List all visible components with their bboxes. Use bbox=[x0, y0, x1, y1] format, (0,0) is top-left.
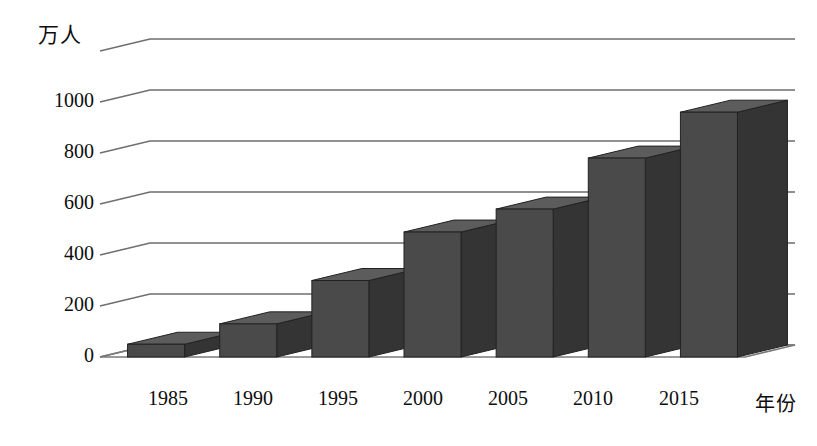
gridline-1200 bbox=[100, 39, 795, 51]
gridline-1000 bbox=[100, 90, 795, 102]
bar-2005 bbox=[496, 197, 603, 357]
bar-2015 bbox=[680, 100, 787, 357]
bar-1990 bbox=[220, 312, 327, 357]
bar-1985 bbox=[128, 332, 235, 357]
bar-1995 bbox=[312, 269, 419, 358]
bar-chart: 万人 1000 800 600 400 200 0 1985 1990 1995… bbox=[0, 0, 817, 446]
plot-area bbox=[0, 0, 817, 446]
bar-group bbox=[128, 100, 788, 357]
bar-2000 bbox=[404, 220, 511, 357]
bar-2010 bbox=[588, 146, 695, 357]
